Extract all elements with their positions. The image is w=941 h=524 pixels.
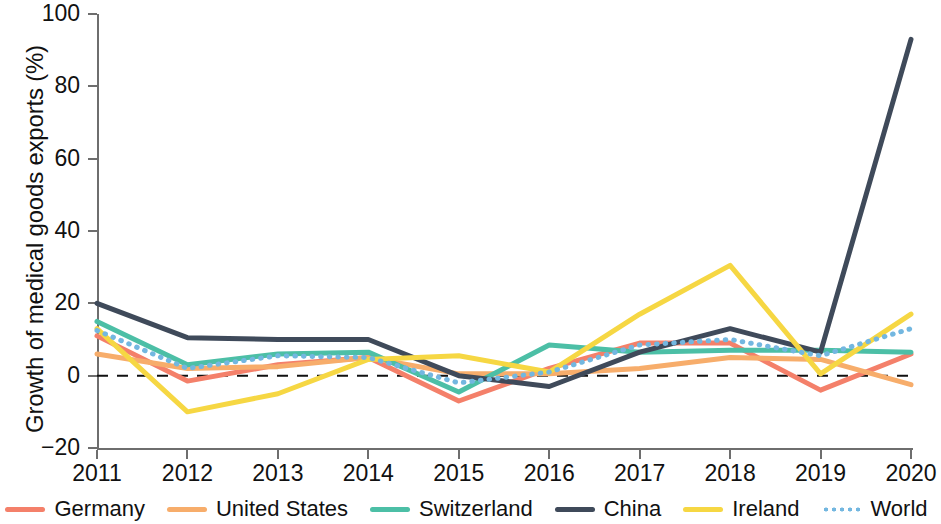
x-tick-label: 2017 [600, 462, 680, 485]
legend-item-switzerland[interactable]: Switzerland [370, 496, 533, 522]
y-tick-mark [88, 230, 97, 232]
x-tick-label: 2016 [509, 462, 589, 485]
y-tick-label: 20 [6, 291, 80, 314]
x-tick-mark [820, 450, 822, 459]
legend-swatch-icon [555, 507, 595, 512]
legend-item-united-states[interactable]: United States [167, 496, 348, 522]
legend-swatch-icon [5, 507, 45, 512]
legend-swatch-icon [822, 507, 862, 512]
legend-label: China [604, 496, 661, 522]
legend-label: United States [216, 496, 348, 522]
legend-item-germany[interactable]: Germany [5, 496, 144, 522]
legend-label: World [871, 496, 928, 522]
legend-label: Ireland [732, 496, 799, 522]
x-tick-mark [910, 450, 912, 459]
y-tick-label: 80 [6, 74, 80, 97]
y-tick-label: 100 [6, 2, 80, 25]
x-tick-mark [186, 450, 188, 459]
x-tick-label: 2019 [781, 462, 861, 485]
x-tick-label: 2018 [690, 462, 770, 485]
x-tick-label: 2014 [328, 462, 408, 485]
legend-label: Germany [54, 496, 144, 522]
x-tick-mark [367, 450, 369, 459]
legend-swatch-icon [683, 507, 723, 512]
x-tick-label: 2013 [238, 462, 318, 485]
x-tick-mark [639, 450, 641, 459]
y-tick-label: −20 [6, 436, 80, 459]
x-tick-label: 2015 [419, 462, 499, 485]
y-tick-label: 40 [6, 219, 80, 242]
plot-area [97, 14, 911, 448]
x-tick-mark [96, 450, 98, 459]
legend-item-china[interactable]: China [555, 496, 661, 522]
x-tick-mark [548, 450, 550, 459]
legend: GermanyUnited StatesSwitzerlandChinaIrel… [0, 494, 933, 524]
x-tick-label: 2011 [57, 462, 137, 485]
legend-swatch-icon [167, 507, 207, 512]
y-tick-mark [88, 85, 97, 87]
legend-item-ireland[interactable]: Ireland [683, 496, 799, 522]
legend-item-world[interactable]: World [822, 496, 928, 522]
y-tick-mark [88, 375, 97, 377]
y-tick-mark [88, 13, 97, 15]
x-axis-line [97, 448, 913, 450]
y-tick-label: 0 [6, 364, 80, 387]
series-lines [97, 14, 911, 448]
x-tick-mark [277, 450, 279, 459]
y-tick-mark [88, 158, 97, 160]
x-tick-label: 2020 [871, 462, 941, 485]
x-tick-label: 2012 [147, 462, 227, 485]
legend-swatch-icon [370, 507, 410, 512]
y-tick-label: 60 [6, 147, 80, 170]
legend-label: Switzerland [419, 496, 533, 522]
y-tick-mark [88, 447, 97, 449]
x-tick-mark [729, 450, 731, 459]
x-tick-mark [458, 450, 460, 459]
